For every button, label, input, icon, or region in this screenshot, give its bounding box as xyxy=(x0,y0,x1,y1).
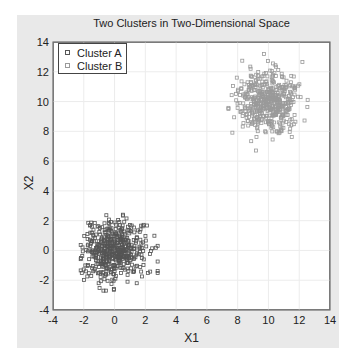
x-tick-label: 0 xyxy=(111,314,117,326)
legend-label: Cluster B xyxy=(77,60,122,72)
y-tick-label: 8 xyxy=(43,125,49,137)
x-tick-label: 4 xyxy=(173,314,179,326)
x-tick-label: 10 xyxy=(262,314,274,326)
y-tick-label: -4 xyxy=(39,304,49,316)
y-tick-label: 2 xyxy=(43,215,49,227)
x-tick-label: 6 xyxy=(204,314,210,326)
x-tick-label: 8 xyxy=(235,314,241,326)
x-tick-label: 12 xyxy=(293,314,305,326)
x-axis-label: X1 xyxy=(53,331,330,345)
square-marker-icon xyxy=(65,63,70,68)
y-tick-label: 10 xyxy=(37,96,49,108)
x-tick-label: 2 xyxy=(142,314,148,326)
y-tick-label: 4 xyxy=(43,185,49,197)
x-tick-label: -2 xyxy=(79,314,89,326)
square-marker-icon xyxy=(65,50,70,55)
y-axis-label: X2 xyxy=(22,176,36,191)
legend-item-cluster-b: Cluster B xyxy=(65,59,122,72)
y-tick-label: -2 xyxy=(39,274,49,286)
legend-label: Cluster A xyxy=(77,47,122,59)
legend: Cluster A Cluster B xyxy=(58,43,127,74)
y-tick-label: 12 xyxy=(37,66,49,78)
legend-item-cluster-a: Cluster A xyxy=(65,46,122,59)
x-tick-label: 14 xyxy=(324,314,336,326)
scatter-plot: -4-202468101214-4-202468101214 xyxy=(0,0,352,363)
x-tick-label: -4 xyxy=(48,314,58,326)
y-tick-label: 14 xyxy=(37,36,49,48)
y-tick-label: 6 xyxy=(43,155,49,167)
y-tick-label: 0 xyxy=(43,244,49,256)
